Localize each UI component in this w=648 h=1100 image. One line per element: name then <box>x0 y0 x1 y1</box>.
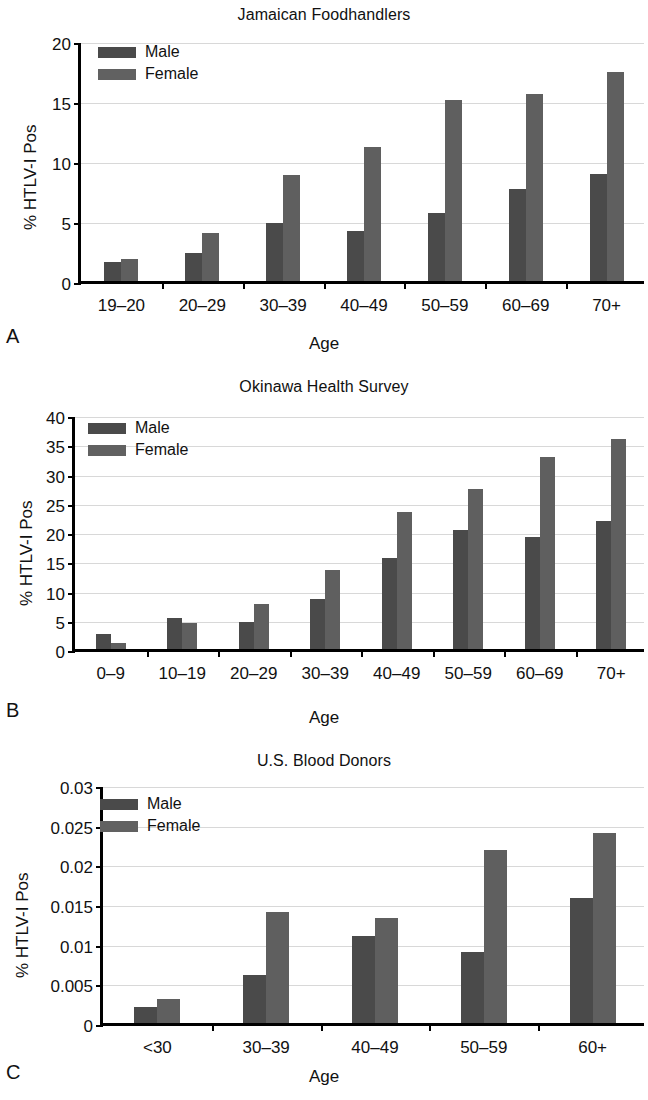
y-axis-tick-label: 0.015 <box>50 899 93 916</box>
bar-male <box>185 253 202 281</box>
y-axis-tick-label: 35 <box>46 439 65 456</box>
bar-male <box>461 952 484 1023</box>
htlv-prevalence-figure: Jamaican Foodhandlers 0510152019–2020–29… <box>0 0 648 1100</box>
x-axis-tick-label: <30 <box>143 1039 172 1056</box>
y-axis-tick <box>96 985 103 987</box>
legend-label-male-b: Male <box>135 420 170 436</box>
bar-male <box>570 898 593 1023</box>
legend-item-male-a: Male <box>98 44 198 60</box>
panel-letter-c: C <box>6 1062 20 1082</box>
x-axis-tick-label: 60–69 <box>516 665 563 682</box>
y-axis-tick <box>96 946 103 948</box>
bar-male <box>352 936 375 1023</box>
bar-female <box>157 999 180 1023</box>
bar-male <box>96 634 111 649</box>
chart-title-a: Jamaican Foodhandlers <box>0 6 648 24</box>
x-axis-tick <box>538 1023 540 1031</box>
bar-female <box>484 850 507 1023</box>
legend-swatch-female-icon <box>98 69 136 80</box>
legend-label-female-c: Female <box>147 818 200 834</box>
legend-label-female-a: Female <box>145 66 198 82</box>
x-axis-tick <box>433 649 435 657</box>
y-axis-tick-label: 0 <box>56 644 65 661</box>
panel-b: Okinawa Health Survey 05101520253035400–… <box>0 368 648 740</box>
bar-female <box>445 100 462 281</box>
bar-female <box>375 918 398 1024</box>
gridline <box>75 563 644 564</box>
gridline <box>103 787 644 788</box>
y-axis-tick-label: 10 <box>52 156 71 173</box>
gridline <box>103 906 644 907</box>
y-axis-tick-label: 15 <box>46 556 65 573</box>
bar-male <box>509 189 526 281</box>
x-axis-tick-label: 70+ <box>592 297 621 314</box>
y-axis-tick <box>96 906 103 908</box>
legend-c: Male Female <box>100 796 200 840</box>
y-axis-label-a: % HTLV-I Pos <box>22 125 39 231</box>
y-axis-tick <box>68 446 75 448</box>
legend-item-male-c: Male <box>100 796 200 812</box>
x-axis-tick <box>504 649 506 657</box>
gridline <box>75 593 644 594</box>
y-axis-label-c: % HTLV-I Pos <box>14 873 31 979</box>
x-axis-tick-label: 40–49 <box>351 1039 398 1056</box>
panel-letter-a: A <box>6 326 19 346</box>
x-axis-label-a: Age <box>0 334 648 354</box>
x-axis-tick <box>147 649 149 657</box>
bar-male <box>167 618 182 649</box>
legend-b: Male Female <box>88 420 188 464</box>
x-axis-tick <box>576 649 578 657</box>
y-axis-tick-label: 0.025 <box>50 819 93 836</box>
gridline <box>81 223 644 224</box>
x-axis-tick-label: 19–20 <box>98 297 145 314</box>
bar-male <box>239 622 254 649</box>
y-axis-tick <box>74 223 81 225</box>
x-axis-tick-label: 30–39 <box>260 297 307 314</box>
y-axis-tick <box>68 593 75 595</box>
bar-female <box>611 439 626 649</box>
x-axis-tick-label: 30–39 <box>302 665 349 682</box>
bar-female <box>526 94 543 281</box>
bar-female <box>325 570 340 649</box>
x-axis-tick-label: 60–69 <box>502 297 549 314</box>
chart-title-b: Okinawa Health Survey <box>0 378 648 396</box>
legend-swatch-female-icon <box>100 821 138 832</box>
bar-male <box>266 223 283 281</box>
y-axis-tick-label: 0 <box>84 1018 93 1035</box>
bar-male <box>590 174 607 281</box>
bar-female <box>397 512 412 649</box>
y-axis-tick <box>68 563 75 565</box>
bar-male <box>453 530 468 649</box>
bar-female <box>593 833 616 1023</box>
y-axis-tick <box>74 43 81 45</box>
y-axis-tick <box>96 787 103 789</box>
bar-male <box>596 521 611 649</box>
bar-female <box>202 233 219 281</box>
y-axis-tick-label: 0.01 <box>60 938 93 955</box>
bar-female <box>254 604 269 649</box>
y-axis-tick-label: 0.005 <box>50 978 93 995</box>
y-axis-tick <box>96 866 103 868</box>
x-axis-tick-label: 10–19 <box>159 665 206 682</box>
gridline <box>75 505 644 506</box>
legend-label-male-a: Male <box>145 44 180 60</box>
gridline <box>75 534 644 535</box>
bar-female <box>283 175 300 281</box>
panel-c: U.S. Blood Donors 00.0050.010.0150.020.0… <box>0 740 648 1100</box>
y-axis-tick-label: 20 <box>52 36 71 53</box>
legend-swatch-male-icon <box>100 799 138 810</box>
y-axis-tick-label: 10 <box>46 585 65 602</box>
x-axis-tick-label: 50–59 <box>445 665 492 682</box>
y-axis-tick-label: 20 <box>46 527 65 544</box>
bar-female <box>111 643 126 649</box>
bar-female <box>121 259 138 281</box>
gridline <box>81 163 644 164</box>
chart-title-c: U.S. Blood Donors <box>0 752 648 770</box>
x-axis-tick <box>212 1023 214 1031</box>
legend-item-female-a: Female <box>98 66 198 82</box>
gridline <box>75 622 644 623</box>
y-axis-tick-label: 0.03 <box>60 780 93 797</box>
panel-a: Jamaican Foodhandlers 0510152019–2020–29… <box>0 0 648 368</box>
bar-female <box>266 912 289 1023</box>
y-axis-tick-label: 0 <box>62 276 71 293</box>
